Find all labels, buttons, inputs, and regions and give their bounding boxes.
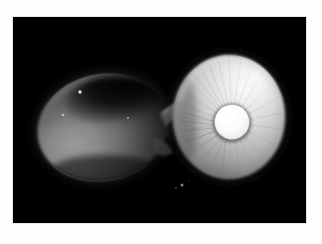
- central-stipe-cross-section: [213, 104, 252, 143]
- figure-photograph-frame: [13, 17, 306, 223]
- figure-caption-text: Basidiocarps showing pileus and hymenium…: [97, 230, 248, 239]
- figure-caption: Fig. 1. Basidiocarps showing pileus and …: [13, 228, 306, 242]
- figure-page: Fig. 1. Basidiocarps showing pileus and …: [0, 0, 322, 244]
- figure-caption-label: Fig. 1.: [72, 230, 95, 239]
- stipe-disc-highlight: [218, 109, 236, 123]
- figure-photograph: [13, 17, 306, 223]
